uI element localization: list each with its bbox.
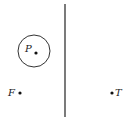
point-p [34, 51, 37, 54]
label-p: P [24, 43, 32, 54]
circle-around-p [18, 35, 50, 67]
point-f [18, 91, 21, 94]
diagram-canvas: P F T [0, 0, 125, 120]
label-t: T [115, 87, 123, 98]
label-f: F [7, 87, 16, 98]
point-t [110, 91, 113, 94]
